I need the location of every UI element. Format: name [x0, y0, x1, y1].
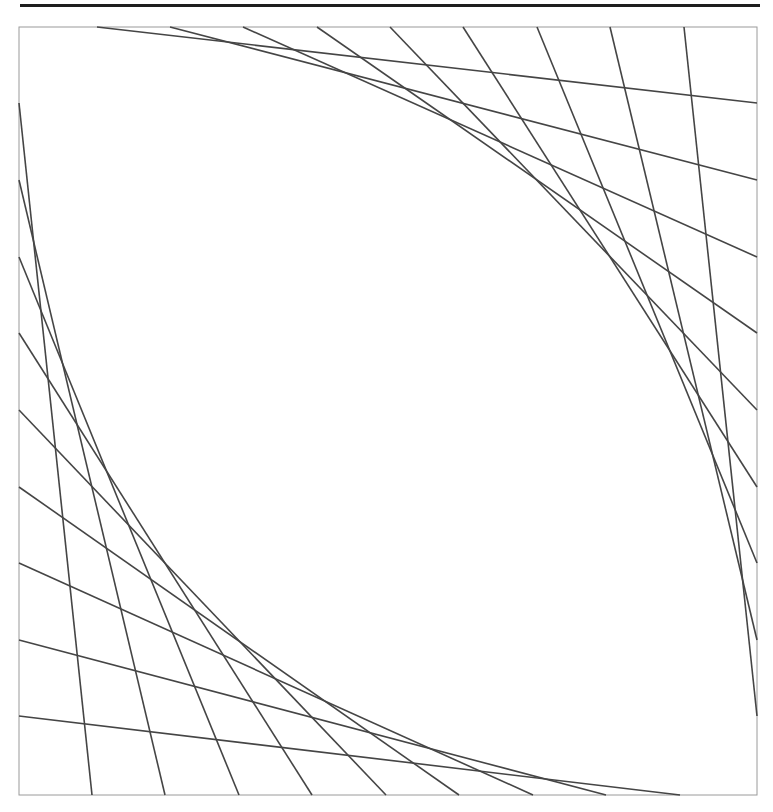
diagram-frame	[19, 27, 757, 795]
string-line	[463, 27, 757, 487]
string-line	[19, 487, 459, 795]
string-line	[390, 27, 757, 410]
string-line	[610, 27, 757, 640]
string-line	[19, 563, 533, 795]
lower-left-envelope	[19, 103, 680, 795]
string-art-diagram	[0, 0, 773, 812]
string-line	[19, 640, 606, 795]
string-line	[684, 27, 757, 716]
string-line	[537, 27, 757, 563]
